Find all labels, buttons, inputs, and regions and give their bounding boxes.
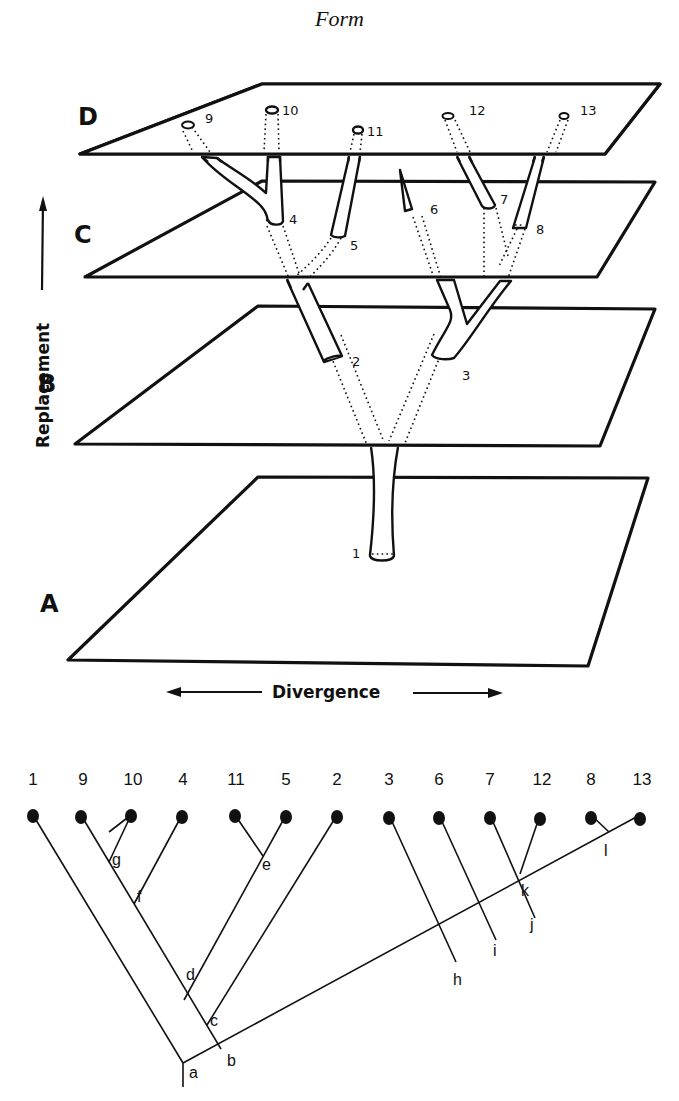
plane-b	[75, 306, 655, 446]
replacement-axis: Replacement	[33, 196, 53, 448]
node-label-g: g	[112, 851, 121, 868]
leaf-label-4: 4	[178, 770, 187, 789]
arrow-left-icon	[166, 687, 181, 697]
label-7: 7	[500, 192, 508, 207]
label-6: 6	[430, 202, 438, 217]
leaf-label-11: 11	[227, 770, 245, 789]
node-label-j: j	[529, 916, 534, 933]
leaf-9	[75, 810, 87, 824]
leaf-label-8: 8	[586, 770, 595, 789]
node-label-e: e	[262, 856, 271, 873]
leaf-2	[331, 810, 343, 824]
leaf-1	[27, 809, 39, 823]
leaf-4	[176, 810, 188, 824]
node-label-k: k	[521, 882, 530, 899]
label-13: 13	[580, 103, 597, 118]
divergence-label: Divergence	[272, 682, 380, 702]
label-9: 9	[205, 111, 213, 126]
node-label-l: l	[604, 842, 608, 859]
leaf-5	[280, 810, 292, 824]
label-4: 4	[289, 212, 297, 227]
leaf-label-9: 9	[78, 770, 87, 789]
leaf-3	[383, 811, 395, 825]
label-8: 8	[536, 222, 544, 237]
plane-d-label: D	[78, 103, 98, 131]
arrow-up-icon	[39, 196, 47, 211]
node-label-b: b	[227, 1052, 236, 1069]
node-label-h: h	[453, 971, 462, 988]
leaf-7	[484, 811, 496, 825]
label-5: 5	[350, 238, 358, 253]
node-label-a: a	[189, 1064, 198, 1081]
replacement-label: Replacement	[33, 323, 53, 448]
leaf-11	[229, 809, 241, 823]
cladogram: 1 9 10 4 11 5 2 3 6 7 12 8 13 a b c d e …	[27, 770, 651, 1087]
leaf-8	[585, 811, 597, 825]
plane-a-label: A	[40, 590, 59, 618]
node-label-f: f	[137, 888, 142, 905]
leaf-label-10: 10	[124, 770, 143, 789]
leaf-10	[125, 809, 137, 823]
node-label-c: c	[210, 1012, 218, 1029]
leaf-label-13: 13	[633, 770, 652, 789]
label-11: 11	[367, 124, 384, 139]
label-12: 12	[469, 103, 486, 118]
plane-c-label: C	[74, 221, 92, 249]
leaf-13	[634, 812, 646, 826]
leaf-label-2: 2	[332, 770, 341, 789]
arrow-right-icon	[488, 688, 503, 698]
node-label-i: i	[493, 942, 497, 959]
leaf-label-1: 1	[28, 770, 37, 789]
evolution-figure: A 1 B 2 3 C 4 5	[0, 0, 679, 1101]
label-2: 2	[352, 354, 360, 369]
label-1: 1	[352, 546, 360, 561]
leaf-6	[433, 811, 445, 825]
leaf-label-3: 3	[384, 770, 393, 789]
node-label-d: d	[186, 966, 195, 983]
label-10: 10	[282, 103, 299, 118]
plane-a	[68, 477, 648, 666]
leaf-label-12: 12	[533, 770, 552, 789]
leaf-label-7: 7	[485, 770, 494, 789]
leaf-12	[534, 812, 546, 826]
leaf-label-6: 6	[434, 770, 443, 789]
label-3: 3	[462, 368, 470, 383]
divergence-axis: Divergence	[166, 682, 503, 702]
leaf-label-5: 5	[281, 770, 290, 789]
plane-c	[85, 181, 655, 277]
